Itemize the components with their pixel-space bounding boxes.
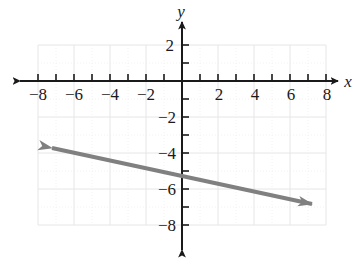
x-tick-label-4: 4	[251, 85, 260, 104]
x-tick-label--6: −6	[65, 85, 83, 104]
x-tick-label--2: −2	[137, 85, 155, 104]
coordinate-plane-svg: −8 −6 −4 −2 2 4 6 8 2 −2 −4 −6 −8 x y	[0, 0, 363, 258]
x-tick-label--8: −8	[29, 85, 47, 104]
y-tick-label--4: −4	[158, 144, 177, 163]
y-axis-ticks	[182, 45, 189, 225]
x-tick-label-2: 2	[215, 85, 224, 104]
y-tick-label--8: −8	[158, 216, 176, 235]
y-tick-label--2: −2	[158, 108, 176, 127]
x-tick-label-8: 8	[323, 85, 332, 104]
x-tick-label--4: −4	[101, 85, 120, 104]
y-tick-label--6: −6	[158, 180, 176, 199]
graph-figure: −8 −6 −4 −2 2 4 6 8 2 −2 −4 −6 −8 x y	[0, 0, 363, 258]
x-axis-label: x	[343, 72, 352, 91]
y-axis-label: y	[175, 2, 185, 21]
y-tick-label-2: 2	[166, 36, 175, 55]
x-tick-label-6: 6	[287, 85, 296, 104]
